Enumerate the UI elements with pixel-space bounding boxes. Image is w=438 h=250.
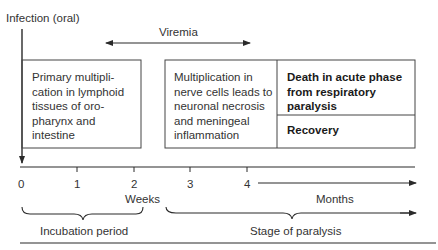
viremia-label: Viremia bbox=[159, 25, 198, 39]
nerve-multiplication-text: Multiplication in nerve cells leads to n… bbox=[174, 70, 272, 143]
months-label: Months bbox=[316, 192, 354, 206]
tick-label-1: 1 bbox=[74, 177, 80, 191]
infection-label: Infection (oral) bbox=[6, 11, 80, 25]
tick-label-0: 0 bbox=[18, 177, 24, 191]
paralysis-brace bbox=[166, 207, 410, 219]
stage-of-paralysis-label: Stage of paralysis bbox=[250, 224, 341, 238]
incubation-brace bbox=[22, 207, 143, 220]
recovery-outcome-text: Recovery bbox=[287, 123, 339, 138]
tick-label-3: 3 bbox=[187, 177, 193, 191]
weeks-label: Weeks bbox=[125, 192, 160, 206]
incubation-period-label: Incubation period bbox=[40, 224, 128, 238]
tick-label-2: 2 bbox=[131, 177, 137, 191]
death-outcome-text: Death in acute phase from respiratory pa… bbox=[287, 70, 402, 114]
tick-label-4: 4 bbox=[244, 177, 250, 191]
primary-multiplication-text: Primary multipli- cation in lymphoid tis… bbox=[32, 70, 124, 143]
